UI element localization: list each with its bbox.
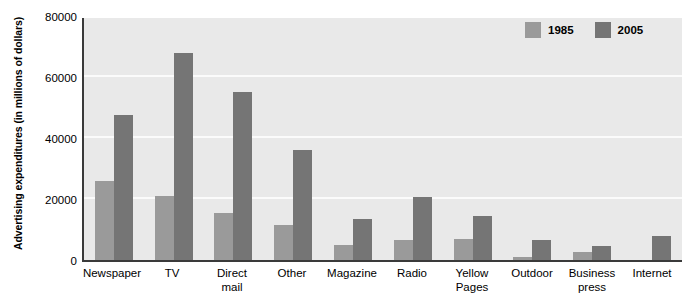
bar-group — [144, 18, 204, 260]
bar-chart: Advertising expenditures (in millions of… — [0, 0, 686, 304]
y-axis-tick-label: 40000 — [45, 134, 77, 145]
bar-2005[interactable] — [174, 53, 193, 260]
y-axis-tick-label: 0 — [71, 256, 77, 267]
x-axis-tick-label: Yellow Pages — [442, 265, 502, 304]
bar-group — [323, 18, 383, 260]
bar-2005[interactable] — [592, 246, 611, 260]
bar-1985[interactable] — [334, 245, 353, 260]
bar-2005[interactable] — [413, 197, 432, 260]
bar-group — [622, 18, 682, 260]
x-axis-tick-label: Magazine — [322, 265, 382, 304]
x-axis-tick-label: Business press — [562, 265, 622, 304]
bar-2005[interactable] — [114, 115, 133, 260]
legend-item-2005[interactable]: 2005 — [595, 22, 644, 38]
plot-area — [82, 18, 682, 262]
x-axis-tick-label: Newspaper — [82, 265, 142, 304]
legend-swatch-1985 — [525, 22, 541, 38]
bar-2005[interactable] — [293, 150, 312, 260]
y-axis-tick-labels: 800006000040000200000 — [38, 0, 81, 272]
y-axis-tick-label: 60000 — [45, 73, 77, 84]
bar-group — [84, 18, 144, 260]
chart-legend: 1985 2005 — [525, 22, 643, 38]
bar-1985[interactable] — [573, 252, 592, 260]
x-axis-tick-label: Direct mail — [202, 265, 262, 304]
legend-label-1985: 1985 — [548, 24, 574, 36]
legend-item-1985[interactable]: 1985 — [525, 22, 574, 38]
bar-1985[interactable] — [214, 213, 233, 260]
bar-group — [562, 18, 622, 260]
bar-group — [503, 18, 563, 260]
bar-group — [263, 18, 323, 260]
x-axis-tick-label: Outdoor — [502, 265, 562, 304]
bar-2005[interactable] — [532, 240, 551, 260]
bar-2005[interactable] — [652, 236, 671, 260]
bar-2005[interactable] — [353, 219, 372, 260]
legend-label-2005: 2005 — [618, 24, 644, 36]
y-axis-title-text: Advertising expenditures (in millions of… — [13, 16, 26, 249]
bar-2005[interactable] — [473, 216, 492, 260]
x-axis-tick-label: Internet — [622, 265, 682, 304]
y-axis-tick-label: 20000 — [45, 195, 77, 206]
bar-1985[interactable] — [394, 240, 413, 260]
bar-1985[interactable] — [95, 181, 114, 260]
bar-2005[interactable] — [233, 92, 252, 260]
bars-layer — [84, 18, 682, 260]
bar-group — [383, 18, 443, 260]
x-axis-tick-label: Radio — [382, 265, 442, 304]
bar-1985[interactable] — [155, 196, 174, 260]
x-axis-tick-label: TV — [142, 265, 202, 304]
bar-group — [443, 18, 503, 260]
bar-1985[interactable] — [274, 225, 293, 260]
y-axis-tick-label: 80000 — [45, 12, 77, 23]
x-axis-tick-label: Other — [262, 265, 322, 304]
x-axis-tick-labels: NewspaperTVDirect mailOtherMagazineRadio… — [82, 265, 682, 304]
bar-1985[interactable] — [513, 257, 532, 260]
bar-1985[interactable] — [454, 239, 473, 260]
bar-group — [204, 18, 264, 260]
legend-swatch-2005 — [595, 22, 611, 38]
y-axis-title: Advertising expenditures (in millions of… — [0, 0, 38, 266]
